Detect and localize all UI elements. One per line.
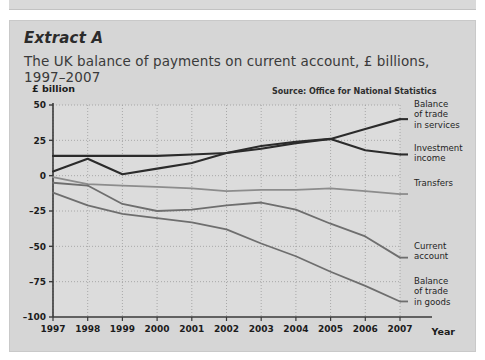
x-tick-label: 2003 bbox=[249, 324, 274, 334]
y-tick-label: 25 bbox=[33, 136, 46, 146]
extract-panel: Extract A The UK balance of payments on … bbox=[9, 20, 476, 352]
page-top-strip bbox=[9, 0, 476, 10]
y-tick-label: –100 bbox=[23, 312, 46, 322]
x-tick-label: 2007 bbox=[387, 324, 412, 334]
y-tick-label: 0 bbox=[40, 171, 46, 181]
x-tick-label: 2004 bbox=[283, 324, 308, 334]
y-tick-label: 50 bbox=[33, 100, 46, 110]
x-tick-label: 1998 bbox=[75, 324, 100, 334]
y-tick-label: –75 bbox=[29, 277, 46, 287]
x-tick-label: 1999 bbox=[110, 324, 135, 334]
y-tick-label: –50 bbox=[29, 242, 46, 252]
x-tick-label: 2005 bbox=[318, 324, 343, 334]
chart-plot-area: 50250–25–50–75–1001997199819992000200120… bbox=[10, 21, 477, 353]
x-axis-title: Year bbox=[431, 326, 455, 337]
x-tick-label: 2002 bbox=[214, 324, 239, 334]
line-chart: 50250–25–50–75–1001997199819992000200120… bbox=[10, 21, 477, 353]
x-tick-label: 2001 bbox=[179, 324, 204, 334]
x-tick-label: 2000 bbox=[145, 324, 170, 334]
x-tick-label: 1997 bbox=[40, 324, 65, 334]
y-tick-label: –25 bbox=[29, 206, 46, 216]
x-tick-label: 2006 bbox=[353, 324, 378, 334]
